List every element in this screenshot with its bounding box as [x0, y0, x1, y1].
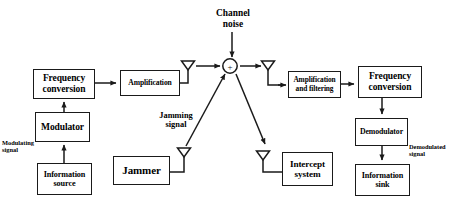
frequency-conversion-rx-box[interactable]: Frequency conversion — [358, 66, 422, 98]
channel-noise-label: Channel noise — [206, 8, 260, 29]
intercept-antenna-icon — [257, 151, 270, 160]
information-source-box[interactable]: Information source — [37, 163, 92, 195]
connector-rxantenna-to-ampfilter — [268, 70, 284, 85]
modulating-signal-label: Modulating signal — [2, 139, 44, 153]
modulator-box[interactable]: Modulator — [35, 112, 90, 142]
amplification-and-filtering-box[interactable]: Amplification and filtering — [288, 71, 341, 98]
connector-jammer-to-antenna — [170, 157, 184, 172]
frequency-conversion-tx-box[interactable]: Frequency conversion — [33, 69, 95, 99]
demodulated-signal-label: Demodulated signal — [409, 143, 461, 157]
amplification-box[interactable]: Amplification — [120, 70, 180, 96]
frequency-conversion-rx-label: Frequency conversion — [369, 71, 412, 92]
information-sink-label: Information sink — [362, 171, 404, 189]
jamming-signal-label: Jamming signal — [152, 111, 200, 130]
demodulator-box[interactable]: Demodulator — [355, 118, 408, 146]
demodulator-label: Demodulator — [360, 128, 403, 137]
frequency-conversion-tx-label: Frequency conversion — [43, 73, 86, 94]
connector-sum-to-intercept — [236, 74, 265, 144]
block-diagram: + Frequency conversion Amplification Mod… — [0, 0, 462, 200]
transmit-antenna-icon — [182, 61, 195, 70]
summing-junction-symbol: + — [227, 62, 232, 72]
summing-junction: + — [223, 59, 237, 73]
receive-antenna-icon — [262, 61, 275, 70]
connector-interceptantenna-to-system — [263, 160, 282, 172]
jammer-label: Jammer — [122, 164, 161, 176]
intercept-system-box[interactable]: Intercept system — [282, 152, 333, 186]
connector-jamming-to-sum — [186, 74, 225, 146]
amplification-label: Amplification — [128, 79, 171, 88]
jammer-antenna-icon — [178, 148, 191, 157]
intercept-system-label: Intercept system — [290, 159, 325, 180]
jammer-box[interactable]: Jammer — [113, 156, 170, 185]
amplification-and-filtering-label: Amplification and filtering — [293, 76, 335, 93]
information-source-label: Information source — [44, 170, 86, 188]
information-sink-box[interactable]: Information sink — [355, 164, 410, 196]
connector-amplification-to-antenna — [180, 70, 188, 83]
modulator-label: Modulator — [41, 122, 84, 133]
